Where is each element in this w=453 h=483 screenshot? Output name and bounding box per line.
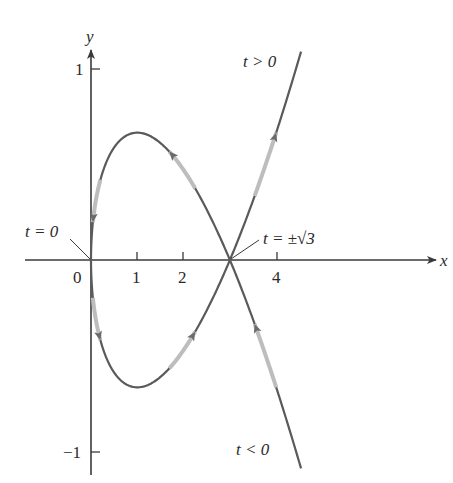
annotation-t-cross: t = ±√3 xyxy=(263,229,315,248)
annotation-t-negative: t < 0 xyxy=(236,440,270,459)
x-tick-label-4: 4 xyxy=(272,268,281,287)
x-axis-label: x xyxy=(439,251,448,270)
parametric-curve-diagram: y x 0 1 2 4 1 −1 t = 0 t = ±√3 t > 0 t <… xyxy=(0,0,453,483)
y-axis-label: y xyxy=(84,27,94,46)
y-tick-label-neg1: −1 xyxy=(63,443,81,462)
y-tick-label-1: 1 xyxy=(75,60,84,79)
x-tick-label-2: 2 xyxy=(178,268,187,287)
annotation-t-zero: t = 0 xyxy=(25,222,59,241)
annotation-t-positive: t > 0 xyxy=(243,52,277,71)
x-tick-label-1: 1 xyxy=(132,268,141,287)
t-zero-leader xyxy=(70,239,90,259)
x-tick-label-0: 0 xyxy=(73,268,82,287)
